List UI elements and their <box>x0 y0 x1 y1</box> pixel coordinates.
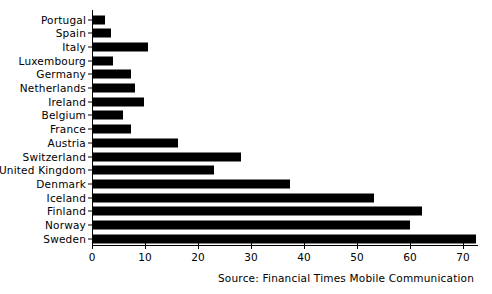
category-label: Germany <box>36 69 86 80</box>
category-label: Netherlands <box>20 83 86 94</box>
bar <box>92 166 214 175</box>
bar-chart-figure: PortugalSpainItalyLuxembourgGermanyNethe… <box>0 0 492 294</box>
x-axis-tick-label: 0 <box>89 252 96 263</box>
bar <box>92 42 148 51</box>
category-label: France <box>50 124 86 135</box>
x-axis-tick <box>463 241 464 249</box>
category-label: Luxembourg <box>19 55 86 66</box>
x-axis-tick <box>145 241 146 249</box>
category-label: Denmark <box>36 179 86 190</box>
source-note: Source: Financial Times Mobile Communica… <box>218 273 474 284</box>
bar <box>92 179 290 188</box>
bar-row: Sweden <box>0 231 492 246</box>
bar <box>92 125 131 134</box>
category-label: Italy <box>62 42 86 53</box>
category-label: Ireland <box>48 96 86 107</box>
bar <box>92 84 135 93</box>
x-axis-tick <box>198 241 199 249</box>
category-label: Belgium <box>42 110 86 121</box>
category-label: Austria <box>48 138 87 149</box>
bar <box>92 193 374 202</box>
bar <box>92 207 422 216</box>
bar <box>92 97 144 106</box>
bar <box>92 221 410 230</box>
category-label: Spain <box>56 28 86 39</box>
category-label: Iceland <box>47 192 86 203</box>
x-axis-tick-label: 30 <box>244 252 257 263</box>
x-axis-tick-label: 20 <box>191 252 204 263</box>
bar <box>92 138 178 147</box>
bar <box>92 29 111 38</box>
x-axis-tick <box>251 241 252 249</box>
category-label: United Kingdom <box>0 165 86 176</box>
x-axis-tick <box>410 241 411 249</box>
category-label: Sweden <box>43 233 86 244</box>
category-label: Norway <box>45 220 86 231</box>
bar <box>92 56 113 65</box>
bar <box>92 15 105 24</box>
x-axis-tick-label: 10 <box>138 252 151 263</box>
bar <box>92 70 131 79</box>
plot-area: PortugalSpainItalyLuxembourgGermanyNethe… <box>0 0 492 294</box>
category-label: Portugal <box>41 14 86 25</box>
x-axis-tick <box>92 241 93 249</box>
x-axis-tick <box>304 241 305 249</box>
x-axis-tick-label: 50 <box>350 252 363 263</box>
x-axis-tick-label: 40 <box>297 252 310 263</box>
category-label: Finland <box>47 206 86 217</box>
x-axis-tick-label: 70 <box>456 252 469 263</box>
bar <box>92 152 241 161</box>
bar <box>92 111 123 120</box>
bar <box>92 234 476 243</box>
category-label: Switzerland <box>23 151 86 162</box>
x-axis-tick <box>357 241 358 249</box>
x-axis-tick-label: 60 <box>403 252 416 263</box>
